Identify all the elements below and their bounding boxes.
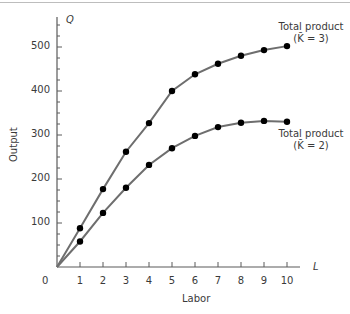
series-line-0 xyxy=(57,46,287,267)
y-axis-label: Output xyxy=(8,127,19,162)
data-point xyxy=(146,162,152,168)
legend-k3: Total product (K̄ = 3) xyxy=(276,21,346,45)
x-tick-label: 3 xyxy=(116,275,136,286)
data-point xyxy=(169,145,175,151)
x-tick-label: 7 xyxy=(208,275,228,286)
x-tick-label: 1 xyxy=(70,275,90,286)
x-tick-label: 5 xyxy=(162,275,182,286)
data-point xyxy=(146,120,152,126)
data-point xyxy=(284,119,290,125)
data-point xyxy=(77,238,83,244)
y-tick-label: 400 xyxy=(20,84,50,95)
x-axis-symbol: L xyxy=(313,261,319,272)
data-point xyxy=(261,47,267,53)
x-tick-label: 10 xyxy=(277,275,297,286)
x-tick-label: 4 xyxy=(139,275,159,286)
plot-area xyxy=(0,0,350,314)
x-tick-label: 8 xyxy=(231,275,251,286)
data-point xyxy=(100,210,106,216)
data-point xyxy=(169,88,175,94)
x-tick-label: 6 xyxy=(185,275,205,286)
legend-k2-line1: Total product xyxy=(276,128,346,140)
data-point xyxy=(192,133,198,139)
legend-k3-line1: Total product xyxy=(276,21,346,33)
data-point xyxy=(192,71,198,77)
data-point xyxy=(238,53,244,59)
y-axis-symbol: Q xyxy=(66,14,74,25)
series-line-1 xyxy=(57,121,287,267)
x-tick-label: 9 xyxy=(254,275,274,286)
legend-k2: Total product (K̄ = 2) xyxy=(276,128,346,152)
y-tick-label: 500 xyxy=(20,40,50,51)
legend-k3-line2: (K̄ = 3) xyxy=(276,33,346,45)
data-point xyxy=(215,61,221,67)
y-tick-label: 200 xyxy=(20,172,50,183)
legend-k2-line2: (K̄ = 2) xyxy=(276,140,346,152)
y-tick-label: 300 xyxy=(20,128,50,139)
data-point xyxy=(215,124,221,130)
y-tick-label: 100 xyxy=(20,216,50,227)
data-point xyxy=(123,149,129,155)
x-tick-label: 2 xyxy=(93,275,113,286)
data-point xyxy=(100,186,106,192)
data-point xyxy=(238,119,244,125)
data-point xyxy=(77,225,83,231)
data-point xyxy=(261,118,267,124)
data-point xyxy=(123,185,129,191)
x-axis-label: Labor xyxy=(182,293,210,304)
origin-label: 0 xyxy=(42,275,48,286)
